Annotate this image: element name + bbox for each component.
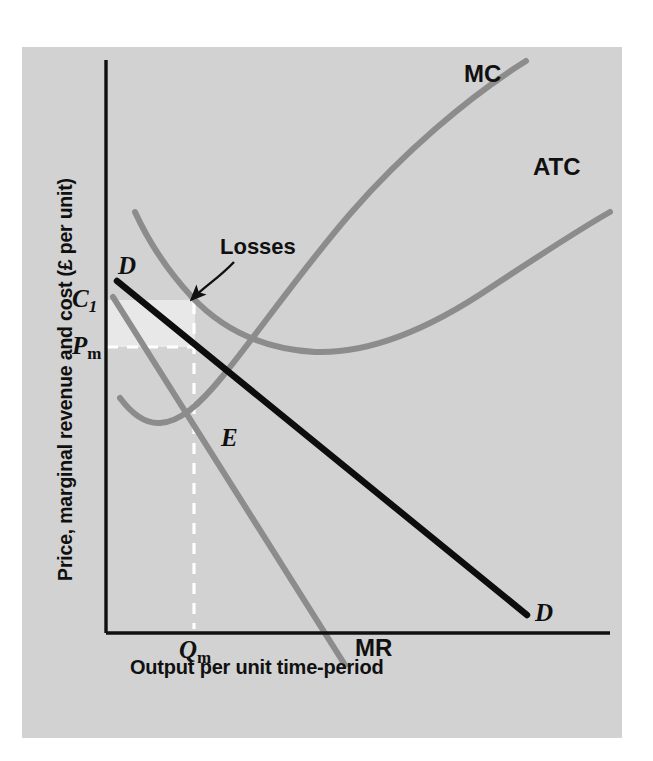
- x-tick-label-qm: Qm: [179, 637, 211, 666]
- y-tick-label-c1: C1: [72, 286, 97, 315]
- y-axis-title: Price, marginal revenue and cost (£ per …: [54, 140, 77, 620]
- demand-label-top: D: [118, 253, 136, 278]
- y-tick-pm-base: P: [72, 332, 87, 359]
- x-tick-qm-subscript: m: [197, 648, 211, 667]
- figure-root: Price, marginal revenue and cost (£ per …: [0, 0, 653, 761]
- demand-label-bottom: D: [535, 600, 553, 625]
- chart-canvas: [0, 0, 653, 761]
- atc-curve-label: ATC: [533, 155, 581, 179]
- atc-curve: [135, 212, 610, 352]
- mc-curve-label: MC: [464, 62, 501, 86]
- mc-curve: [120, 61, 526, 423]
- losses-arrow: [192, 262, 234, 299]
- x-tick-qm-base: Q: [179, 636, 197, 663]
- y-tick-c1-base: C: [72, 285, 89, 312]
- mr-curve-label: MR: [355, 636, 392, 660]
- losses-annotation-label: Losses: [220, 236, 296, 258]
- y-tick-pm-subscript: m: [87, 344, 101, 363]
- equilibrium-label-e: E: [221, 425, 238, 450]
- demand-line: [117, 281, 527, 615]
- x-axis-title: Output per unit time-period: [130, 656, 383, 679]
- y-tick-label-pm: Pm: [72, 333, 101, 362]
- y-tick-c1-subscript: 1: [89, 297, 98, 316]
